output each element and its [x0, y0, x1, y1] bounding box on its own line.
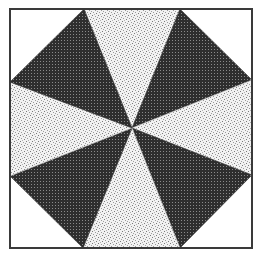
quilt-block-svg: [0, 0, 261, 253]
quilt-block-figure: [0, 0, 261, 253]
